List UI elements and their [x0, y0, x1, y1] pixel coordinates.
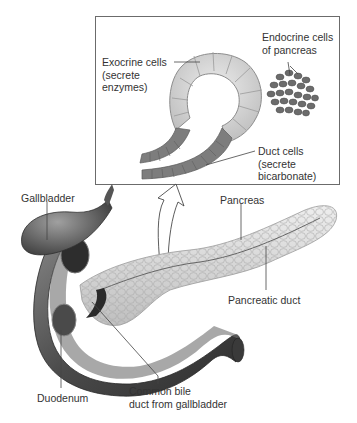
label-endocrine-cells: Endocrine cells of pancreas [262, 31, 333, 56]
exocrine-acinus [170, 52, 262, 142]
label-gallbladder: Gallbladder [21, 192, 75, 205]
label-duct-cells: Duct cells (secrete bicarbonate) [258, 145, 316, 183]
label-line: Common bile [129, 385, 227, 398]
duct-cells [140, 128, 232, 179]
label-line: Exocrine cells [102, 56, 167, 69]
duodenum-opening [232, 338, 244, 362]
label-line: Endocrine cells [262, 31, 333, 44]
label-line: duct from gallbladder [129, 398, 227, 411]
label-line: (secrete [102, 69, 167, 82]
diagram-artwork [0, 0, 357, 423]
label-line: Duct cells [258, 145, 316, 158]
label-line: enzymes) [102, 81, 167, 94]
label-pancreas: Pancreas [220, 194, 264, 207]
label-line: (secrete [258, 158, 316, 171]
label-line: of pancreas [262, 44, 333, 57]
endocrine-islet [267, 70, 319, 116]
duodenum-cut-lower [52, 304, 76, 336]
label-pancreatic-duct: Pancreatic duct [228, 294, 300, 307]
pancreas-diagram: Exocrine cells (secrete enzymes) Endocri… [0, 0, 357, 423]
gallbladder [22, 200, 112, 255]
label-duodenum: Duodenum [37, 392, 88, 405]
label-line: bicarbonate) [258, 170, 316, 183]
label-common-bile-duct: Common bile duct from gallbladder [129, 385, 227, 410]
label-exocrine-cells: Exocrine cells (secrete enzymes) [102, 56, 167, 94]
